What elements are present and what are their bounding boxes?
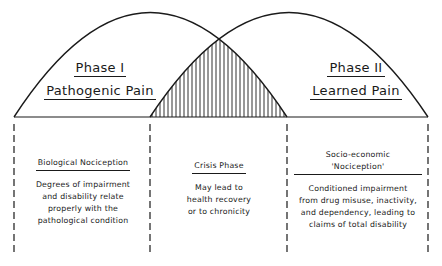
phase-1-title: Phase I Pathogenic Pain [30, 57, 170, 103]
phase-2-subtitle: Learned Pain [310, 82, 401, 100]
column-socioeconomic: Socio-economic 'Nociception' Conditioned… [294, 149, 422, 231]
phase-2-name: Phase II [327, 59, 384, 77]
column-crisis: Crisis Phase May lead to health recovery… [156, 160, 282, 218]
phase-1-name: Phase I [74, 59, 127, 77]
phase-1-subtitle: Pathogenic Pain [44, 82, 155, 100]
column-heading: Biological Nociception [36, 157, 130, 171]
column-heading: Crisis Phase [192, 160, 245, 174]
phase-2-title: Phase II Learned Pain [296, 57, 416, 103]
column-biological: Biological Nociception Degrees of impair… [24, 157, 142, 227]
